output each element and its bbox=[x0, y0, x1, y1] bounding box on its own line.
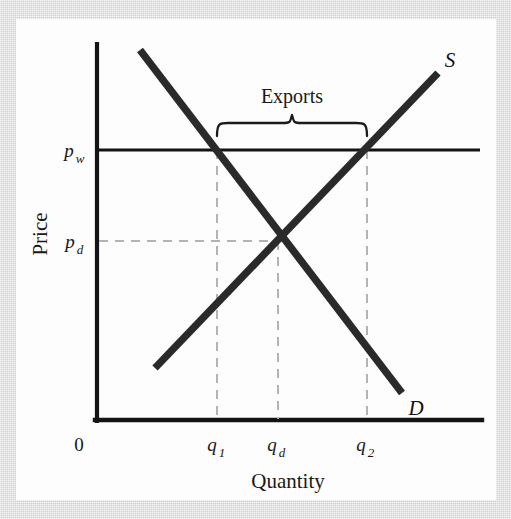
y-tick-pw: p w bbox=[62, 140, 84, 166]
y-tick-pw-subscript: w bbox=[76, 151, 85, 166]
y-tick-pw-base: p bbox=[62, 140, 74, 161]
y-tick-pd-base: p bbox=[63, 231, 75, 252]
figure-canvas: Exports S D p w p d 0 q 1 q bbox=[16, 19, 496, 500]
x-tick-q1-base: q bbox=[207, 434, 217, 455]
exports-label: Exports bbox=[261, 85, 323, 108]
x-tick-qd-subscript: d bbox=[279, 445, 286, 460]
x-axis-title: Quantity bbox=[251, 469, 325, 493]
supply-curve-label: S bbox=[445, 48, 456, 72]
x-tick-q2-base: q bbox=[356, 434, 366, 455]
x-tick-q1: q 1 bbox=[207, 434, 225, 460]
figure-outer-frame: Exports S D p w p d 0 q 1 q bbox=[0, 0, 511, 519]
y-tick-pd-subscript: d bbox=[77, 242, 84, 257]
x-tick-q1-subscript: 1 bbox=[219, 445, 226, 460]
x-tick-q2-subscript: 2 bbox=[368, 445, 375, 460]
y-axis-title: Price bbox=[28, 212, 52, 255]
exports-brace-icon bbox=[217, 115, 367, 136]
supply-demand-plot: Exports S D p w p d 0 q 1 q bbox=[16, 19, 496, 500]
origin-label: 0 bbox=[74, 434, 84, 455]
demand-curve-label: D bbox=[407, 396, 423, 420]
x-tick-qd: q d bbox=[267, 434, 286, 460]
supply-curve bbox=[155, 73, 438, 368]
x-tick-qd-base: q bbox=[267, 434, 277, 455]
y-tick-pd: p d bbox=[63, 231, 84, 257]
x-tick-q2: q 2 bbox=[356, 434, 375, 460]
